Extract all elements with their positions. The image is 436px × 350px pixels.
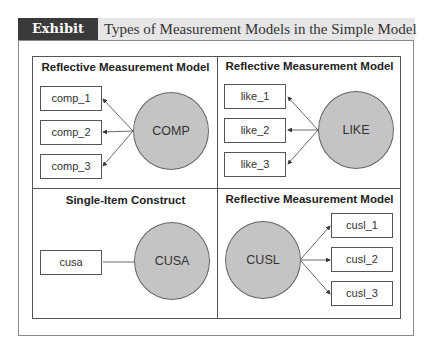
indicator-comp-2: comp_2 <box>40 120 102 145</box>
construct-label-like: LIKE <box>319 92 393 168</box>
construct-like: LIKE <box>318 91 394 169</box>
indicator-cusl-3: cusl_3 <box>331 281 393 306</box>
quadrant-title-like: Reflective Measurement Model <box>218 60 401 72</box>
indicator-like-1: like_1 <box>224 84 286 109</box>
quadrant-title-cusa: Single-Item Construct <box>34 194 217 206</box>
construct-comp: COMP <box>133 92 209 170</box>
construct-label-cusa: CUSA <box>135 223 209 299</box>
indicator-cusa: cusa <box>40 250 102 275</box>
construct-cusl: CUSL <box>225 221 301 299</box>
construct-label-comp: COMP <box>134 93 208 169</box>
indicator-comp-3: comp_3 <box>40 154 102 179</box>
quadrant-title-comp: Reflective Measurement Model <box>34 61 217 73</box>
construct-label-cusl: CUSL <box>226 222 300 298</box>
indicator-cusl-1: cusl_1 <box>331 213 393 238</box>
quadrant-title-cusl: Reflective Measurement Model <box>218 193 401 205</box>
indicator-cusl-2: cusl_2 <box>331 247 393 272</box>
construct-cusa: CUSA <box>134 222 210 300</box>
indicator-comp-1: comp_1 <box>40 86 102 111</box>
like-arrows <box>288 97 318 164</box>
cusl-arrows <box>300 226 330 294</box>
comp-arrows <box>103 99 133 166</box>
indicator-like-3: like_3 <box>224 152 286 177</box>
indicator-like-2: like_2 <box>224 118 286 143</box>
